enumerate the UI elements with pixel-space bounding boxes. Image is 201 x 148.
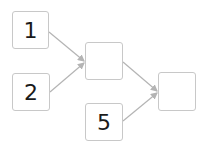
node-result-empty [158, 72, 196, 111]
node-3-empty [85, 42, 123, 80]
edge-4-to-5 [123, 93, 157, 121]
edge-2-to-3 [50, 63, 84, 92]
edge-3-to-5 [123, 62, 157, 91]
node-1: 1 [12, 11, 49, 49]
node-2: 2 [12, 73, 50, 111]
node-5: 5 [85, 103, 123, 141]
edge-1-to-3 [49, 32, 84, 61]
